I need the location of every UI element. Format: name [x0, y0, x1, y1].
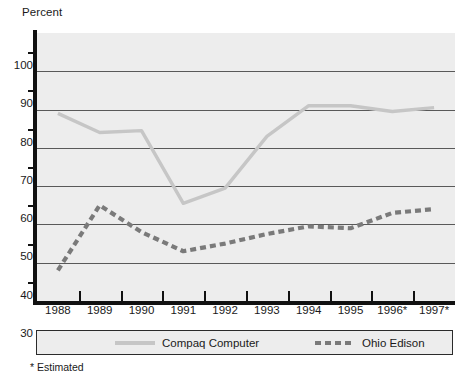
- series-line-compaq-computer: [58, 106, 434, 204]
- x-axis-label-1992: 1992: [212, 304, 238, 316]
- x-axis-label-1991: 1991: [171, 304, 197, 316]
- x-axis-labels: 198819891990199119921993199419951996*199…: [37, 304, 457, 320]
- legend-swatch-solid-line-icon: [115, 341, 155, 345]
- y-axis-label-40: 40: [5, 290, 33, 302]
- y-axis-label-90: 90: [5, 98, 33, 110]
- y-axis-line: [33, 30, 37, 304]
- x-axis-label-1988: 1988: [45, 304, 71, 316]
- x-axis-label-1994: 1994: [296, 304, 322, 316]
- y-axis-label-50: 50: [5, 251, 33, 263]
- y-axis-label-100: 100: [5, 60, 33, 72]
- y-axis-label-70: 70: [5, 175, 33, 187]
- y-axis-label-80: 80: [5, 137, 33, 149]
- legend-label-compaq-computer: Compaq Computer: [162, 337, 259, 349]
- x-axis-label-1993: 1993: [254, 304, 280, 316]
- chart-plot-area: [37, 33, 455, 301]
- series-lines: [37, 33, 455, 301]
- chart-footnote: * Estimated: [30, 361, 84, 373]
- x-axis-label-1989: 1989: [87, 304, 113, 316]
- legend-item-compaq-computer: Compaq Computer: [115, 331, 259, 354]
- x-axis-label-1997-est: 1997*: [419, 304, 449, 316]
- y-axis-title: Percent: [22, 6, 62, 18]
- x-axis-label-1996-est: 1996*: [377, 304, 407, 316]
- y-axis-label-60: 60: [5, 213, 33, 225]
- legend-swatch-dashed-line-icon: [315, 341, 355, 345]
- x-axis-label-1990: 1990: [129, 304, 155, 316]
- x-axis-label-1995: 1995: [338, 304, 364, 316]
- y-axis-label-30: 30: [5, 328, 33, 340]
- legend-label-ohio-edison: Ohio Edison: [362, 337, 425, 349]
- legend-item-ohio-edison: Ohio Edison: [315, 331, 425, 354]
- chart-legend: Compaq Computer Ohio Edison: [36, 330, 453, 355]
- series-line-ohio-edison: [58, 205, 434, 270]
